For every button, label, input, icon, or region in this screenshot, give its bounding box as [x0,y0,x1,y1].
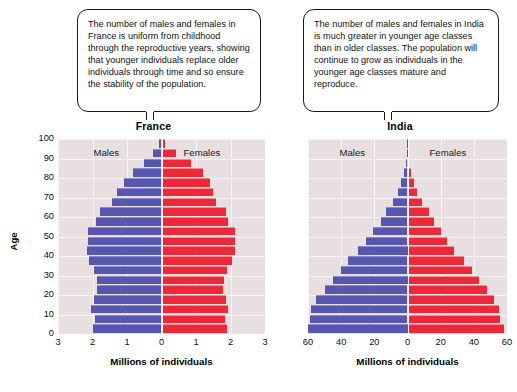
y-tick-label: 90 [32,154,54,163]
bar-male [401,178,408,187]
bar-female [408,227,441,236]
x-tick-label: 60 [492,337,517,347]
bar-male [398,188,408,197]
bar-female [408,256,464,265]
y-axis-ticks-france: 0102030405060708090100 [28,139,54,334]
bar-female [162,188,213,197]
x-tick-label: 20 [426,337,456,347]
bar-male [381,217,408,226]
bar-female [162,246,235,255]
bar-female [162,149,176,158]
bar-male [358,246,408,255]
x-tick-label: 40 [459,337,489,347]
bar-male [89,256,161,265]
y-tick-label: 70 [32,193,54,202]
bar-male [325,285,408,294]
bar-female [408,246,454,255]
x-tick-label: 3 [43,337,73,347]
bar-male [96,217,162,226]
legend-label-females: Females [430,147,467,158]
center-axis-line [162,139,163,334]
x-tick-label: 0 [393,337,423,347]
bar-male [341,266,407,275]
bar-male [95,315,162,324]
bar-female [162,285,223,294]
bar-female [408,276,479,285]
bar-male [310,315,408,324]
x-axis-ticks-france: 3210123 [58,337,265,351]
bar-female [408,285,488,294]
plot-area-india: MalesFemales [308,139,507,334]
bar-male [386,207,408,216]
bar-male [144,159,162,168]
bar-male [94,295,161,304]
x-tick-label: 3 [250,337,280,347]
bar-female [162,159,191,168]
y-axis-title-france: Age [8,212,19,272]
plot-area-france: MalesFemales [58,139,265,334]
bar-female [162,178,211,187]
bar-female [162,198,216,207]
y-tick-label: 50 [32,232,54,241]
bar-male [311,305,407,314]
bar-female [408,324,504,333]
x-tick-label: 60 [293,337,323,347]
bar-male [133,168,161,177]
bar-female [162,295,226,304]
bar-female [162,217,229,226]
bar-male [348,256,408,265]
x-tick-label: 1 [112,337,142,347]
y-tick-label: 40 [32,251,54,260]
bar-male [153,149,161,158]
bar-female [408,315,501,324]
bar-female [408,217,435,226]
bar-male [333,276,408,285]
legend-label-males: Males [94,147,120,158]
callout-group: The number of males and females in Franc… [0,0,517,118]
x-tick-label: 0 [147,337,177,347]
bar-male [393,198,408,207]
bar-male [366,237,407,246]
bar-male [93,324,161,333]
chart-panel-india: India MalesFemales 6040200204060 Million… [281,118,517,392]
bar-male [124,178,162,187]
callout-india: The number of males and females in India… [303,9,499,112]
bar-female [162,207,226,216]
chart-panel-france: France Age 0102030405060708090100 MalesF… [0,118,281,392]
bar-female [408,237,448,246]
bar-female [408,266,473,275]
bar-female [408,305,499,314]
bar-female [408,295,494,304]
x-tick-label: 1 [181,337,211,347]
legend-label-females: Females [184,147,221,158]
bar-female [408,188,418,197]
bar-male [94,266,161,275]
bar-male [97,276,162,285]
chart-title-france: France [0,120,281,132]
y-tick-label: 100 [32,134,54,143]
y-tick-label: 60 [32,212,54,221]
callout-france-text: The number of males and females in Franc… [88,18,251,90]
bar-male [88,237,162,246]
bar-female [162,315,225,324]
bar-male [373,227,408,236]
bar-male [316,295,407,304]
bar-male [100,207,161,216]
x-tick-label: 20 [359,337,389,347]
bar-female [162,227,236,236]
x-tick-label: 2 [216,337,246,347]
legend-label-males: Males [340,147,366,158]
callout-india-text: The number of males and females in India… [314,18,489,90]
callout-france: The number of males and females in Franc… [77,9,261,112]
x-axis-title-france: Millions of individuals [58,356,265,367]
bar-male [87,246,161,255]
bar-female [162,305,229,314]
bar-male [88,227,161,236]
y-tick-label: 30 [32,271,54,280]
bar-female [162,324,227,333]
y-tick-label: 80 [32,173,54,182]
bar-female [162,168,203,177]
x-axis-title-india: Millions of individuals [308,356,507,367]
x-tick-label: 40 [326,337,356,347]
bar-male [117,188,161,197]
